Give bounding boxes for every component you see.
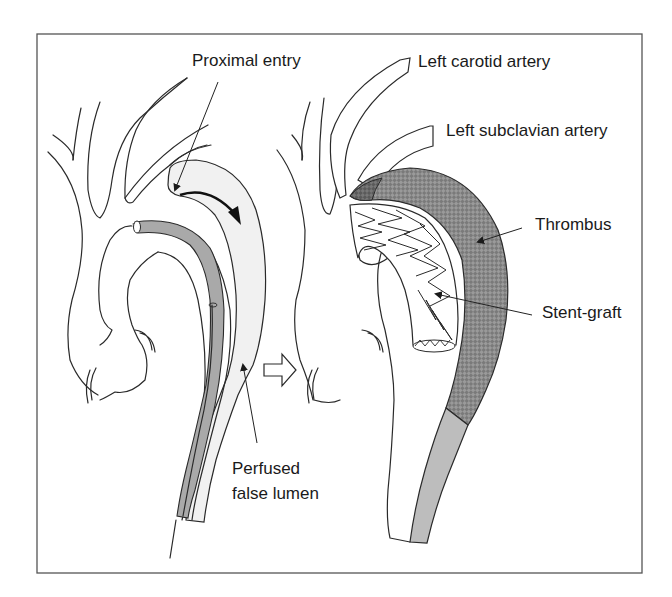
label-perfused-false-lumen-line1: Perfused (232, 459, 300, 479)
label-proximal-entry: Proximal entry (192, 51, 301, 71)
label-thrombus: Thrombus (535, 215, 612, 235)
distal-false-lumen (410, 408, 468, 543)
label-left-subclavian-artery: Left subclavian artery (446, 121, 608, 141)
diagram-canvas (0, 0, 672, 597)
right-arrow-icon (264, 354, 296, 386)
label-left-carotid-artery: Left carotid artery (418, 52, 550, 72)
label-perfused-false-lumen-line2: false lumen (232, 484, 319, 504)
stent-graft (350, 204, 458, 352)
aortic-dissection-diagram: Proximal entry Perfused false lumen Left… (0, 0, 672, 597)
label-stent-graft: Stent-graft (542, 303, 621, 323)
